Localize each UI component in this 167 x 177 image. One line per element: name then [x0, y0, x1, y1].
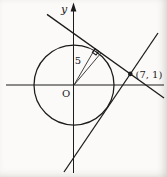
origin-label: O	[62, 88, 70, 99]
radius-length-label: 5	[75, 55, 81, 66]
geometry-figure: y 5 O (7, 1)	[0, 0, 167, 177]
external-point-label: (7, 1)	[136, 69, 163, 80]
y-axis-label: y	[60, 3, 68, 16]
y-axis-arrow-icon	[71, 3, 77, 12]
diagram-canvas: y 5 O (7, 1)	[0, 0, 167, 177]
external-point-dot	[128, 72, 133, 77]
